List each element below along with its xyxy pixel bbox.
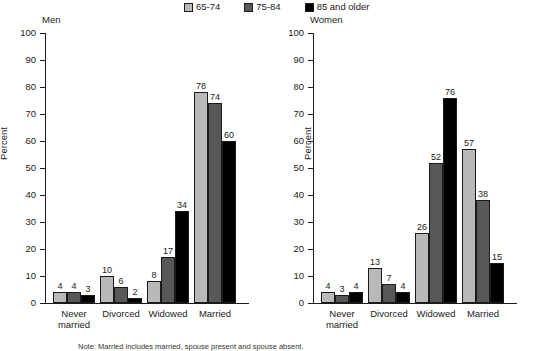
bar-slot: 52: [429, 33, 443, 303]
y-tick-label-90: 90: [293, 54, 304, 65]
y-tick-label-20: 20: [293, 243, 304, 254]
bar-value-label: 57: [464, 138, 474, 148]
x-category-label: Married: [185, 308, 245, 319]
bar[interactable]: [349, 292, 363, 303]
y-tick-label-60: 60: [293, 135, 304, 146]
bar[interactable]: [147, 281, 161, 303]
plot-area-men: 443106281734787460: [45, 33, 248, 303]
bar[interactable]: [67, 292, 81, 303]
bar-value-label: 4: [353, 281, 358, 291]
bar-slot: 78: [194, 33, 208, 303]
bar[interactable]: [128, 298, 142, 303]
bar-slot: 10: [100, 33, 114, 303]
bar-value-label: 10: [102, 265, 112, 275]
bar[interactable]: [100, 276, 114, 303]
bars: 1374: [368, 33, 410, 303]
y-tick-0: 0: [40, 303, 45, 304]
bars: 265276: [415, 33, 457, 303]
bar-slot: 2: [128, 33, 142, 303]
bar[interactable]: [114, 287, 128, 303]
bar-value-label: 38: [478, 189, 488, 199]
bar[interactable]: [208, 103, 222, 303]
bar-value-label: 4: [400, 281, 405, 291]
bar[interactable]: [161, 257, 175, 303]
y-tick-label-30: 30: [25, 216, 36, 227]
y-tick-label-70: 70: [293, 108, 304, 119]
bars: 787460: [194, 33, 236, 303]
bar-value-label: 3: [339, 284, 344, 294]
bar[interactable]: [490, 263, 504, 304]
y-tick-label-100: 100: [288, 27, 304, 38]
bars: 81734: [147, 33, 189, 303]
bar-value-label: 74: [210, 92, 220, 102]
bar[interactable]: [194, 92, 208, 303]
bar-slot: 26: [415, 33, 429, 303]
bar[interactable]: [175, 211, 189, 303]
bar[interactable]: [81, 295, 95, 303]
y-tick-label-10: 10: [25, 270, 36, 281]
x-category-label-line: Married: [453, 308, 513, 319]
bars: 1062: [100, 33, 142, 303]
bar-slot: 17: [161, 33, 175, 303]
bar-value-label: 3: [85, 284, 90, 294]
y-tick-label-0: 0: [31, 297, 36, 308]
panel-title-women: Women: [310, 14, 548, 25]
bar-value-label: 26: [417, 222, 427, 232]
bar[interactable]: [321, 292, 335, 303]
bar[interactable]: [415, 233, 429, 303]
bar-slot: 76: [443, 33, 457, 303]
bar-slot: 4: [67, 33, 81, 303]
x-category-label: Married: [453, 308, 513, 319]
bar-slot: 13: [368, 33, 382, 303]
y-tick-label-50: 50: [25, 162, 36, 173]
x-category-label-line: married: [312, 319, 372, 330]
y-tick-label-80: 80: [293, 81, 304, 92]
y-tick-label-100: 100: [20, 27, 36, 38]
bar-value-label: 2: [132, 287, 137, 297]
bar[interactable]: [368, 268, 382, 303]
bar-slot: 8: [147, 33, 161, 303]
bar-value-label: 15: [492, 252, 502, 262]
bar[interactable]: [335, 295, 349, 303]
bars: 573815: [462, 33, 504, 303]
panel-women: Women Percent 0102030405060708090100 434…: [268, 0, 520, 338]
y-tick-label-10: 10: [293, 270, 304, 281]
bar-value-label: 60: [224, 130, 234, 140]
panel-men: Men Percent 0102030405060708090100 44310…: [0, 0, 252, 338]
bar-value-label: 4: [57, 281, 62, 291]
bar-slot: 7: [382, 33, 396, 303]
bar-slot: 15: [490, 33, 504, 303]
bars: 434: [321, 33, 363, 303]
bar[interactable]: [462, 149, 476, 303]
bar-slot: 4: [321, 33, 335, 303]
bar[interactable]: [443, 98, 457, 303]
y-tick-label-80: 80: [25, 81, 36, 92]
y-axis-label-men: Percent: [0, 127, 9, 160]
bar-slot: 3: [81, 33, 95, 303]
bar-value-label: 8: [151, 270, 156, 280]
bar[interactable]: [476, 200, 490, 303]
bar[interactable]: [396, 292, 410, 303]
bar-value-label: 4: [325, 281, 330, 291]
y-tick-label-20: 20: [25, 243, 36, 254]
bar-value-label: 4: [71, 281, 76, 291]
bar-slot: 4: [396, 33, 410, 303]
bar-slot: 57: [462, 33, 476, 303]
bar-value-label: 17: [163, 246, 173, 256]
bar[interactable]: [429, 163, 443, 303]
bar-slot: 6: [114, 33, 128, 303]
bar-value-label: 78: [196, 81, 206, 91]
bar[interactable]: [53, 292, 67, 303]
y-tick-0: 0: [308, 303, 313, 304]
bar-value-label: 6: [118, 276, 123, 286]
x-category-label-line: Married: [185, 308, 245, 319]
y-tick-label-90: 90: [25, 54, 36, 65]
y-tick-label-0: 0: [299, 297, 304, 308]
bar-value-label: 7: [386, 273, 391, 283]
y-tick-label-70: 70: [25, 108, 36, 119]
bars: 443: [53, 33, 95, 303]
bar-slot: 34: [175, 33, 189, 303]
bar[interactable]: [222, 141, 236, 303]
bar[interactable]: [382, 284, 396, 303]
